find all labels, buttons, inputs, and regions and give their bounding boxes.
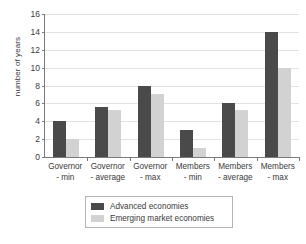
x-axis-label-line1: Governor	[48, 162, 82, 171]
bar-chart: number of years 0246810121416 Governor- …	[0, 0, 306, 244]
bars-layer	[45, 14, 299, 157]
y-axis-tick-mark	[42, 157, 45, 158]
x-axis-label: Members- min	[172, 161, 215, 183]
x-axis-label-line1: Governor	[133, 162, 167, 171]
x-axis-label-line2: - average	[214, 172, 257, 183]
bar-emerging	[193, 148, 206, 157]
legend-swatch-advanced	[91, 203, 104, 210]
bar-advanced	[180, 130, 193, 157]
x-axis-label-line1: Members	[218, 162, 252, 171]
legend-item[interactable]: Advanced economies	[91, 200, 227, 212]
legend-label: Advanced economies	[110, 202, 188, 211]
bar-group	[130, 14, 172, 157]
bar-advanced	[265, 32, 278, 157]
x-axis-label-line1: Members	[176, 162, 210, 171]
legend-item[interactable]: Emerging market economies	[91, 212, 227, 224]
y-axis-tick-label: 12	[6, 50, 40, 51]
y-axis-tick-label: 6	[6, 103, 40, 104]
x-axis-label-line2: - min	[172, 172, 215, 183]
bar-group	[45, 14, 87, 157]
x-axis-label-line1: Members	[261, 162, 295, 171]
chart-legend: Advanced economiesEmerging market econom…	[85, 196, 233, 228]
y-axis-tick-label: 0	[6, 157, 40, 158]
y-axis-tick-label: 2	[6, 139, 40, 140]
legend-swatch-emerging	[91, 215, 104, 222]
y-axis-tick-label: 14	[6, 32, 40, 33]
x-axis-label-line2: - max	[257, 172, 300, 183]
bar-advanced	[138, 86, 151, 158]
x-axis-label-line2: - max	[129, 172, 172, 183]
bar-group	[257, 14, 299, 157]
x-axis-label: Governor- min	[44, 161, 87, 183]
x-axis-tick-mark	[299, 157, 300, 161]
bar-emerging	[151, 94, 164, 157]
x-axis-label: Members- max	[257, 161, 300, 183]
bar-advanced	[95, 107, 108, 157]
bar-emerging	[66, 139, 79, 157]
x-axis-label-line1: Governor	[91, 162, 125, 171]
x-axis-label: Governor- max	[129, 161, 172, 183]
bar-emerging	[108, 110, 121, 157]
bar-advanced	[222, 103, 235, 157]
x-axis-label: Members- average	[214, 161, 257, 183]
bar-emerging	[278, 68, 291, 157]
y-axis-tick-label: 4	[6, 121, 40, 122]
bar-emerging	[235, 110, 248, 157]
x-axis-label-line2: - min	[44, 172, 87, 183]
x-axis-label-line2: - average	[87, 172, 130, 183]
legend-label: Emerging market economies	[110, 214, 214, 223]
y-axis-tick-label: 16	[6, 14, 40, 15]
bar-group	[172, 14, 214, 157]
plot-area: 0246810121416	[44, 14, 299, 158]
y-axis-tick-label: 10	[6, 68, 40, 69]
bar-group	[214, 14, 256, 157]
bar-group	[87, 14, 129, 157]
bar-advanced	[53, 121, 66, 157]
y-axis-tick-label: 8	[6, 86, 40, 87]
x-axis-labels: Governor- minGovernor- averageGovernor- …	[44, 161, 299, 183]
x-axis-label: Governor- average	[87, 161, 130, 183]
